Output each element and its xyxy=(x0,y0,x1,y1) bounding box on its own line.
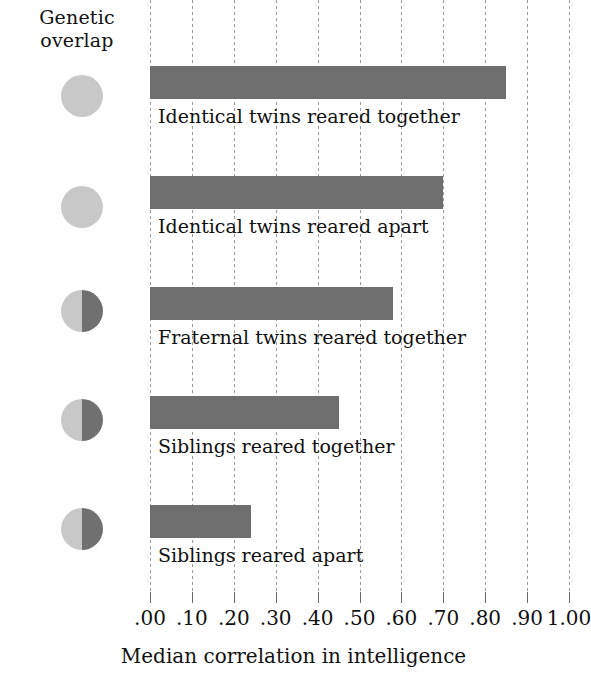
axis-tick-label: .70 xyxy=(427,606,459,630)
circle-left-half xyxy=(61,399,82,441)
axis-tick-label: .50 xyxy=(344,606,376,630)
axis-tick-label: .60 xyxy=(385,606,417,630)
axis-tick-label: .30 xyxy=(260,606,292,630)
axis-tick-label: .20 xyxy=(218,606,250,630)
axis-tick xyxy=(485,592,486,603)
axis-tick xyxy=(527,592,528,603)
bar-label: Fraternal twins reared together xyxy=(158,326,466,348)
gridline xyxy=(527,0,528,592)
bar xyxy=(150,396,339,429)
half-circle-icon xyxy=(61,399,103,441)
axis-tick xyxy=(192,592,193,603)
circle-right-half xyxy=(82,75,103,117)
axis-tick-label: 1.00 xyxy=(547,606,591,630)
axis-tick-label: .90 xyxy=(511,606,543,630)
half-circle-icon xyxy=(61,290,103,332)
bar-label: Siblings reared together xyxy=(158,435,394,457)
bar-label: Siblings reared apart xyxy=(158,544,363,566)
bar xyxy=(150,66,506,99)
axis-tick xyxy=(443,592,444,603)
circle-left-half xyxy=(61,75,82,117)
axis-tick-label: .10 xyxy=(176,606,208,630)
full-circle-icon xyxy=(61,75,103,117)
axis-tick xyxy=(401,592,402,603)
circle-right-half xyxy=(82,399,103,441)
bar-label: Identical twins reared together xyxy=(158,105,460,127)
bar xyxy=(150,287,393,320)
circle-left-half xyxy=(61,508,82,550)
axis-tick-labels: .00.10.20.30.40.50.60.70.80.901.00 xyxy=(0,606,587,632)
axis-tick xyxy=(318,592,319,603)
circle-right-half xyxy=(82,290,103,332)
axis-tick xyxy=(360,592,361,603)
axis-tick-label: .80 xyxy=(469,606,501,630)
bar xyxy=(150,505,251,538)
circle-left-half xyxy=(61,290,82,332)
circle-right-half xyxy=(82,508,103,550)
axis-tick-marks xyxy=(150,592,569,604)
axis-tick-label: .00 xyxy=(134,606,166,630)
bar-label: Identical twins reared apart xyxy=(158,215,429,237)
genetic-overlap-header-line2: overlap xyxy=(14,29,140,52)
circle-right-half xyxy=(82,186,103,228)
genetic-overlap-header: Genetic overlap xyxy=(14,6,140,52)
axis-tick xyxy=(276,592,277,603)
axis-tick-label: .40 xyxy=(302,606,334,630)
bar xyxy=(150,176,443,209)
axis-tick xyxy=(234,592,235,603)
genetic-overlap-header-line1: Genetic xyxy=(14,6,140,29)
axis-title: Median correlation in intelligence xyxy=(0,644,587,668)
plot-area xyxy=(150,0,569,592)
full-circle-icon xyxy=(61,186,103,228)
half-circle-icon xyxy=(61,508,103,550)
axis-tick xyxy=(150,592,151,603)
gridline xyxy=(569,0,570,592)
circle-left-half xyxy=(61,186,82,228)
axis-tick xyxy=(569,592,570,603)
